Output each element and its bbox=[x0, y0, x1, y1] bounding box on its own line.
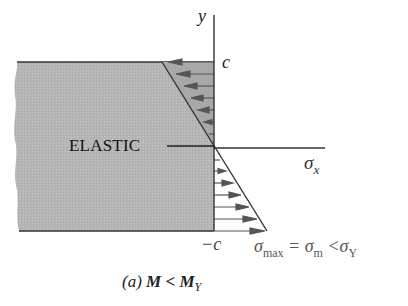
figure-caption: (a) M < MY bbox=[122, 272, 201, 295]
stress-relation: σmax = σm <σY bbox=[254, 236, 357, 261]
y-axis-label: y bbox=[198, 6, 206, 27]
top-fiber-label: c bbox=[222, 52, 230, 73]
elastic-label: ELASTIC bbox=[69, 136, 140, 156]
sigma-x-label: σx bbox=[304, 152, 319, 178]
bottom-fiber-label: −c bbox=[201, 234, 221, 255]
